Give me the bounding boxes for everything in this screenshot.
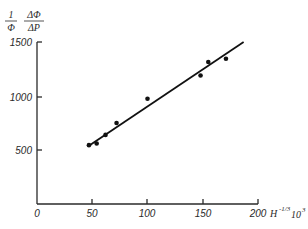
y-title-den1: Φ [7, 22, 15, 33]
x-tick-150: 150 [195, 208, 212, 219]
chart: 1 Φ ΔΦ ΔP 1500 1000 500 0 50 100 150 200… [0, 0, 308, 229]
y-title-num2: ΔΦ [26, 9, 41, 20]
y-title-den2: ΔP [27, 22, 40, 33]
y-tick-labels: 1500 1000 500 [10, 37, 33, 156]
x-tick-100: 100 [139, 208, 156, 219]
x-tick-200: 200 [249, 208, 267, 219]
data-point [103, 133, 108, 138]
x-title-base: H [269, 208, 278, 219]
x-title-exp: -1/3 [279, 205, 291, 213]
y-tick-1000: 1000 [10, 92, 33, 103]
data-point [87, 143, 92, 148]
data-point [224, 56, 229, 61]
x-tick-50: 50 [86, 208, 98, 219]
x-tick-labels: 0 50 100 150 200 [34, 208, 267, 219]
data-point [198, 73, 203, 78]
x-axis-title: H -1/3 10 3 [269, 205, 306, 220]
x-title-mult-exp: 3 [301, 206, 306, 214]
x-tick-0: 0 [34, 208, 40, 219]
y-axis-title: 1 Φ ΔΦ ΔP [5, 9, 44, 33]
y-tick-1500: 1500 [10, 37, 33, 48]
data-point [94, 141, 99, 146]
fit-line [89, 42, 244, 146]
axes [37, 42, 258, 204]
data-point [206, 60, 211, 65]
fit-line-path [89, 42, 244, 146]
x-title-mult: 10 [291, 209, 301, 220]
data-point [145, 96, 150, 101]
data-point [114, 121, 119, 126]
y-tick-500: 500 [15, 145, 32, 156]
y-title-num1: 1 [9, 9, 14, 20]
